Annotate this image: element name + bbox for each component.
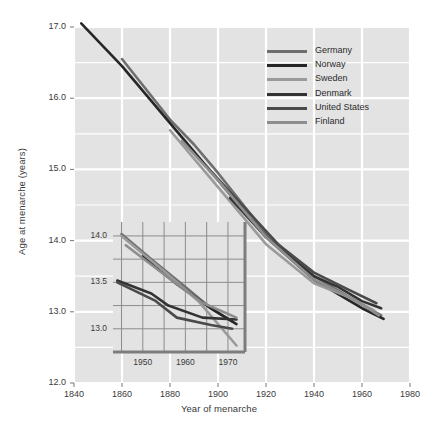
legend-swatch-germany (267, 50, 307, 53)
x-tick-label: 1840 (51, 389, 97, 399)
x-tick-label: 1860 (99, 389, 145, 399)
chart-figure: Age at menarche (years) Year of menarche… (0, 0, 438, 435)
inset-y-tick-label: 13.0 (77, 323, 107, 333)
legend-swatch-finland (267, 121, 307, 124)
inset-x-tick-label: 1950 (126, 357, 160, 367)
chart-canvas (0, 0, 438, 435)
x-tick-label: 1920 (243, 389, 289, 399)
y-tick-label: 17.0 (24, 21, 66, 31)
x-tick-label: 1880 (147, 389, 193, 399)
x-axis-title: Year of menarche (0, 403, 438, 414)
y-tick-label: 16.0 (24, 92, 66, 102)
x-tick-label: 1980 (387, 389, 433, 399)
legend-label-united-states: United States (315, 102, 369, 112)
legend-swatch-denmark (267, 93, 307, 96)
inset-y-tick-label: 13.5 (77, 276, 107, 286)
inset-y-tick-label: 14.0 (77, 230, 107, 240)
y-tick-label: 13.0 (24, 306, 66, 316)
legend-swatch-norway (267, 64, 307, 67)
legend-label-finland: Finland (315, 116, 345, 126)
legend-swatch-sweden (267, 78, 307, 81)
inset-x-tick-label: 1960 (168, 357, 202, 367)
legend-swatch-united-states (267, 107, 307, 110)
y-tick-label: 12.0 (24, 377, 66, 387)
legend-label-sweden: Sweden (315, 73, 348, 83)
x-tick-label: 1900 (195, 389, 241, 399)
y-tick-label: 14.0 (24, 235, 66, 245)
legend-label-denmark: Denmark (315, 88, 352, 98)
y-tick-label: 15.0 (24, 163, 66, 173)
inset-x-tick-label: 1970 (211, 357, 245, 367)
legend-label-norway: Norway (315, 59, 346, 69)
x-tick-label: 1960 (339, 389, 385, 399)
legend-label-germany: Germany (315, 45, 352, 55)
x-tick-label: 1940 (291, 389, 337, 399)
